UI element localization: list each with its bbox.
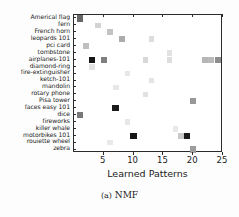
- heatmap-cell: [77, 15, 84, 22]
- heatmap-cell: [101, 57, 107, 63]
- y-axis-tick: [73, 45, 76, 46]
- heatmap-cell: [149, 78, 155, 84]
- x-axis-tick-label: 10: [121, 155, 145, 165]
- y-axis-label: fireworks: [0, 118, 70, 124]
- x-axis-tick-label: 5: [91, 155, 115, 165]
- heatmap-cell: [215, 57, 221, 63]
- y-axis-tick: [73, 52, 76, 53]
- heatmap-cell: [143, 57, 149, 63]
- heatmap-cell: [119, 36, 125, 42]
- heatmap-cell: [202, 57, 208, 63]
- caption-label: NMF: [115, 190, 138, 200]
- y-axis-label: zebra: [0, 145, 70, 151]
- heatmap-cell: [89, 64, 95, 70]
- heatmap-cell: [143, 92, 149, 98]
- heatmap-cell: [107, 29, 113, 35]
- heatmap-cell: [190, 146, 196, 152]
- heatmap-cell: [83, 43, 89, 49]
- heatmap-cell: [178, 133, 184, 139]
- y-axis-category-labels: Americal flagfernFrench hornleopards 101…: [0, 14, 70, 152]
- heatmap-cell: [190, 98, 196, 104]
- y-axis-tick: [73, 86, 76, 87]
- heatmap-cell: [112, 105, 119, 112]
- y-axis-tick: [73, 93, 76, 94]
- y-axis-label: killer whale: [0, 125, 70, 131]
- x-axis-tick-label: 20: [180, 155, 204, 165]
- x-axis-tick-top: [162, 14, 163, 17]
- heatmap-cell: [149, 36, 155, 42]
- y-axis-tick: [73, 107, 76, 108]
- y-axis-tick: [73, 128, 76, 129]
- y-axis-tick: [73, 80, 76, 81]
- heatmap-cell: [95, 23, 101, 29]
- heatmap-cell: [125, 71, 131, 77]
- x-axis-title: Learned Patterns: [73, 168, 222, 179]
- y-axis-tick: [73, 66, 76, 67]
- heatmap-cell: [89, 57, 96, 64]
- y-axis-label: tombstone: [0, 49, 70, 55]
- y-axis-tick: [73, 59, 76, 60]
- x-axis-tick-top: [133, 14, 134, 17]
- y-axis-tick: [73, 149, 76, 150]
- heatmap-cell: [167, 50, 173, 56]
- y-axis-tick: [73, 135, 76, 136]
- heatmap-cell: [173, 126, 179, 132]
- heatmap-plot-area: [73, 14, 222, 152]
- heatmap-cell: [167, 57, 173, 63]
- heatmap-cell: [107, 140, 113, 146]
- figure-nmf-heatmap: Americal flagfernFrench hornleopards 101…: [0, 0, 239, 217]
- x-axis-tick-label: 25: [210, 155, 234, 165]
- x-axis-tick-top: [222, 14, 223, 17]
- y-axis-tick: [73, 73, 76, 74]
- x-axis-tick-top: [192, 14, 193, 17]
- x-axis-tick-top: [103, 14, 104, 17]
- heatmap-cell: [130, 133, 137, 140]
- heatmap-cell: [208, 57, 214, 63]
- x-axis-tick-label: 15: [150, 155, 174, 165]
- y-axis-tick: [73, 100, 76, 101]
- y-axis-tick: [73, 31, 76, 32]
- y-axis-tick: [73, 38, 76, 39]
- y-axis-tick: [73, 142, 76, 143]
- heatmap-cell: [184, 133, 191, 140]
- caption-index: (a): [101, 191, 112, 200]
- heatmap-cell: [77, 112, 83, 118]
- y-axis-tick: [73, 17, 76, 18]
- y-axis-label: airplanes-101: [0, 56, 70, 62]
- heatmap-cell: [125, 119, 131, 125]
- y-axis-tick: [73, 121, 76, 122]
- y-axis-tick: [73, 24, 76, 25]
- figure-caption: (a) NMF: [0, 190, 239, 200]
- y-axis-tick: [73, 114, 76, 115]
- heatmap-cell: [113, 85, 119, 91]
